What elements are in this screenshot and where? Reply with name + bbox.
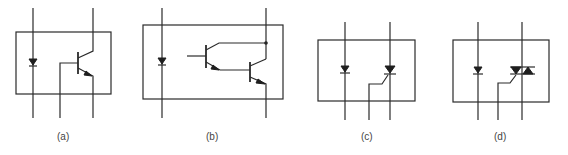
- panel-d: (d): [453, 22, 549, 142]
- triac-icon: [498, 67, 535, 120]
- led-diode-icon: [340, 66, 350, 73]
- panel-label: (c): [361, 131, 373, 142]
- panel-c: (c): [318, 22, 415, 142]
- panel-label: (d): [494, 131, 506, 142]
- optocoupler-diagram: (a) (b): [0, 0, 568, 155]
- panel-label: (a): [57, 131, 69, 142]
- panel-a: (a): [16, 8, 111, 142]
- phototransistor-icon: [60, 8, 93, 118]
- panel-label: (b): [206, 131, 218, 142]
- led-diode-icon: [158, 58, 166, 65]
- package-outline: [453, 40, 549, 102]
- package-outline: [318, 40, 415, 101]
- led-diode-icon: [29, 59, 37, 66]
- darlington-transistor-2-icon: [250, 59, 266, 118]
- scr-icon: [369, 66, 396, 120]
- panel-b: (b): [143, 8, 283, 142]
- package-outline: [143, 25, 283, 99]
- led-diode-icon: [473, 67, 483, 74]
- darlington-transistor-1-icon: [187, 43, 266, 70]
